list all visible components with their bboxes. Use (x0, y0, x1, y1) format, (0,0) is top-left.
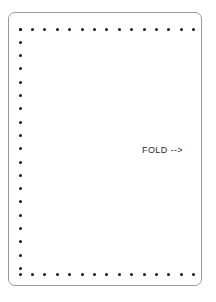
perforation-dot-left (19, 161, 22, 164)
perforation-dot-left (19, 214, 22, 217)
perforation-dot-left (19, 41, 22, 44)
perforation-dot-left (19, 134, 22, 137)
perforation-dot-left (19, 174, 22, 177)
perforation-dot-bottom (105, 273, 108, 276)
perforation-dot-bottom (130, 273, 133, 276)
perforation-dot-top (31, 28, 34, 31)
perforation-dot-bottom (167, 273, 170, 276)
perforation-dot-bottom (155, 273, 158, 276)
perforation-dot-left (19, 28, 22, 31)
perforation-dot-left (19, 187, 22, 190)
perforation-dot-bottom (43, 273, 46, 276)
perforation-dot-top (105, 28, 108, 31)
perforation-dot-left (19, 227, 22, 230)
perforation-dot-bottom (180, 273, 183, 276)
perforation-dot-top (155, 28, 158, 31)
perforation-dot-bottom (56, 273, 59, 276)
perforation-dot-left (19, 81, 22, 84)
fold-label: FOLD --> (142, 145, 183, 156)
perforation-dot-bottom (192, 273, 195, 276)
perforation-dot-left (19, 254, 22, 257)
perforation-dot-top (143, 28, 146, 31)
perforation-dot-bottom (118, 273, 121, 276)
perforation-dot-bottom (68, 273, 71, 276)
perforation-dot-top (68, 28, 71, 31)
perforation-dot-left (19, 94, 22, 97)
perforation-dot-top (130, 28, 133, 31)
perforation-dot-left (19, 121, 22, 124)
perforation-dot-top (167, 28, 170, 31)
perforation-dot-left (19, 54, 22, 57)
perforation-dot-top (56, 28, 59, 31)
perforation-dot-bottom (81, 273, 84, 276)
perforation-dot-top (43, 28, 46, 31)
perforation-dot-bottom (19, 273, 22, 276)
perforation-dot-bottom (93, 273, 96, 276)
fold-diagram-canvas: FOLD --> (0, 0, 216, 302)
perforation-dot-left (19, 240, 22, 243)
perforation-dot-top (118, 28, 121, 31)
perforation-dot-left (19, 267, 22, 270)
perforation-dot-top (180, 28, 183, 31)
perforation-dot-left (19, 147, 22, 150)
perforation-dot-top (81, 28, 84, 31)
perforation-dot-left (19, 107, 22, 110)
perforation-dot-top (192, 28, 195, 31)
perforation-dot-bottom (31, 273, 34, 276)
perforation-dot-top (93, 28, 96, 31)
perforation-dot-bottom (143, 273, 146, 276)
